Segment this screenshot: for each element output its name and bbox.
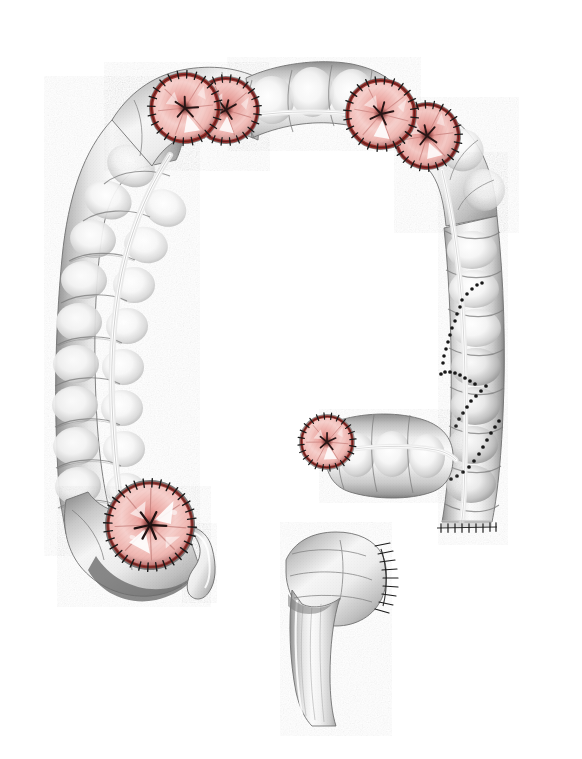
anatomical-plate	[0, 0, 582, 759]
colon-illustration-svg	[0, 0, 582, 759]
paper-grain-overlay	[0, 0, 582, 759]
illustration-canvas: Colon resection with multiple transected…	[0, 0, 582, 759]
